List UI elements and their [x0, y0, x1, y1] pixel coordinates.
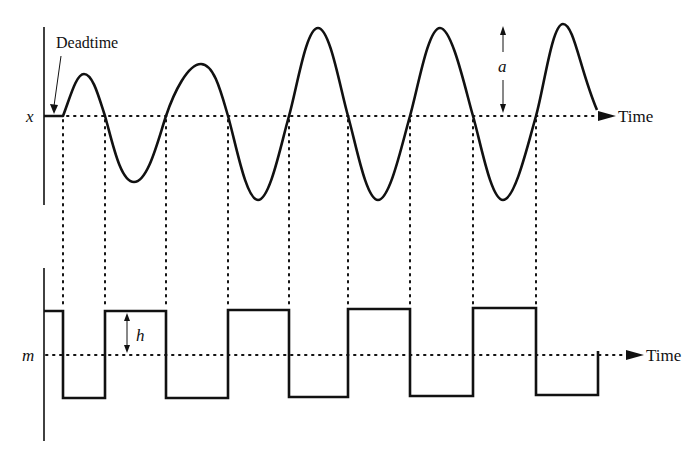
amplitude-h-label: h — [136, 326, 145, 345]
m-time-arrow-icon — [626, 350, 644, 360]
relay-oscillation-diagram: Time x Deadtime a Time m — [0, 0, 700, 462]
amplitude-a-label: a — [498, 57, 507, 76]
x-time-label: Time — [618, 107, 653, 126]
a-arrow-down-icon — [500, 104, 506, 113]
m-axis-label: m — [22, 346, 34, 365]
top-panel: Time x Deadtime a — [25, 24, 653, 205]
process-output-curve — [44, 24, 597, 200]
deadtime-pointer — [54, 56, 61, 106]
h-arrow-up-icon — [124, 313, 130, 321]
deadtime-label: Deadtime — [56, 34, 118, 51]
deadtime-arrow-icon — [50, 104, 58, 114]
switching-connectors — [63, 120, 536, 307]
x-time-arrow-icon — [598, 111, 616, 121]
x-axis-label: x — [25, 107, 34, 126]
h-arrow-down-icon — [124, 345, 130, 353]
bottom-panel: Time m h — [22, 268, 681, 441]
a-arrow-up-icon — [500, 26, 506, 35]
m-time-label: Time — [646, 346, 681, 365]
